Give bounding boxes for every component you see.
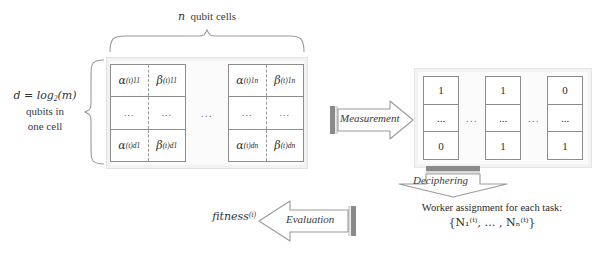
beta-cell-ellipsis: ... xyxy=(149,97,186,128)
bit-value-top: 0 xyxy=(548,77,582,105)
diagram-canvas: n qubit cells d = log2(m) qubits in one … xyxy=(0,0,595,257)
d-qubits-label: d = log2(m) qubits in one cell xyxy=(2,88,88,134)
qubit-row-ellipsis: ... ... xyxy=(229,97,303,129)
alpha-subscript: d1 xyxy=(133,141,141,150)
beta-cell: β(t)d1 xyxy=(149,130,186,161)
bit-column-1: 1 ... 0 xyxy=(423,76,459,160)
beta-subscript: d1 xyxy=(170,141,178,150)
alpha-cell: α(t)11 xyxy=(111,65,149,96)
alpha-subscript: dn xyxy=(251,141,259,150)
beta-superscript: (t) xyxy=(281,141,288,150)
d-equals-log: d = log xyxy=(13,89,53,102)
evaluation-label: Evaluation xyxy=(286,213,334,225)
alpha-cell: α(t)dn xyxy=(229,130,267,161)
alpha-symbol: α xyxy=(236,74,243,87)
alpha-superscript: (t) xyxy=(126,141,133,150)
beta-cell: β(t)11 xyxy=(149,65,186,96)
first-cell-block: α(t)11 β(t)11 ... ... α(t)d1 β(t)d1 xyxy=(110,64,186,162)
n-symbol: n xyxy=(178,10,185,23)
beta-subscript: dn xyxy=(288,141,296,150)
d-of-m: (m) xyxy=(58,89,77,102)
last-cell-block: α(t)1n β(t)1n ... ... α(t)dn β(t)dn xyxy=(228,64,304,162)
ellipsis-text: ... xyxy=(124,107,135,118)
beta-superscript: (t) xyxy=(163,76,170,85)
alpha-symbol: α xyxy=(118,139,125,152)
bit-column-3: 0 ... 1 xyxy=(547,76,583,160)
measurement-label: Measurement xyxy=(340,112,399,124)
d-one-cell-text: one cell xyxy=(2,119,88,134)
bit-value-top: 1 xyxy=(486,77,520,105)
d-qubits-in-text: qubits in xyxy=(2,104,88,119)
bit-column-2: 1 ... 1 xyxy=(485,76,521,160)
alpha-superscript: (t) xyxy=(244,76,251,85)
qubit-row: α(t)d1 β(t)d1 xyxy=(111,130,185,161)
alpha-cell-ellipsis: ... xyxy=(111,97,149,128)
bit-value-bottom: 0 xyxy=(424,132,458,159)
bit-value-bottom: 1 xyxy=(486,132,520,159)
worker-assignment-text: Worker assignment for each task: {N₁⁽ᵗ⁾,… xyxy=(392,200,592,231)
bit-value-top: 1 xyxy=(424,77,458,105)
ellipsis-text: ... xyxy=(280,107,291,118)
bit-value-middle: ... xyxy=(548,105,582,133)
d-formula-line: d = log2(m) xyxy=(2,88,88,104)
bit-columns-ellipsis: ... xyxy=(459,113,485,124)
deciphering-label: Deciphering xyxy=(413,174,468,186)
alpha-superscript: (t) xyxy=(244,141,251,150)
alpha-symbol: α xyxy=(236,139,243,152)
beta-subscript: 1n xyxy=(288,76,296,85)
qubit-row: α(t)11 β(t)11 xyxy=(111,65,185,97)
fitness-symbol: fitness xyxy=(212,210,249,223)
qubit-row-ellipsis: ... ... xyxy=(111,97,185,129)
n-qubit-cells-brace xyxy=(108,30,306,52)
beta-cell: β(t)dn xyxy=(267,130,304,161)
qubit-cells-text: qubit cells xyxy=(188,10,236,22)
ellipsis-text: ... xyxy=(242,107,253,118)
bit-value-middle: ... xyxy=(486,105,520,133)
alpha-subscript: 11 xyxy=(133,76,140,85)
beta-cell-ellipsis: ... xyxy=(267,97,304,128)
qubit-row: α(t)dn β(t)dn xyxy=(229,130,303,161)
bit-columns-ellipsis: ... xyxy=(521,113,547,124)
alpha-cell-ellipsis: ... xyxy=(229,97,267,128)
beta-superscript: (t) xyxy=(163,141,170,150)
bit-value-bottom: 1 xyxy=(548,132,582,159)
worker-assignment-formula: {N₁⁽ᵗ⁾, … , Nₙ⁽ᵗ⁾} xyxy=(392,215,592,231)
qubit-row: α(t)1n β(t)1n xyxy=(229,65,303,97)
cell-blocks-ellipsis: ... xyxy=(189,108,225,119)
qubit-matrix: α(t)11 β(t)11 ... ... α(t)d1 β(t)d1 ... … xyxy=(106,57,308,169)
alpha-cell: α(t)1n xyxy=(229,65,267,96)
alpha-cell: α(t)d1 xyxy=(111,130,149,161)
alpha-symbol: α xyxy=(119,74,126,87)
beta-cell: β(t)1n xyxy=(267,65,304,96)
alpha-subscript: 1n xyxy=(251,76,259,85)
beta-superscript: (t) xyxy=(281,76,288,85)
fitness-superscript: (t) xyxy=(249,210,256,219)
alpha-superscript: (t) xyxy=(126,76,133,85)
bit-value-middle: ... xyxy=(424,105,458,133)
measured-bit-matrix: 1 ... 0 ... 1 ... 1 ... 0 ... 1 xyxy=(414,68,592,168)
ellipsis-text: ... xyxy=(162,107,173,118)
worker-assignment-title: Worker assignment for each task: xyxy=(392,200,592,215)
n-qubit-cells-label: n qubit cells xyxy=(157,10,257,24)
beta-subscript: 11 xyxy=(170,76,177,85)
fitness-label: fitness(t) xyxy=(188,210,256,224)
